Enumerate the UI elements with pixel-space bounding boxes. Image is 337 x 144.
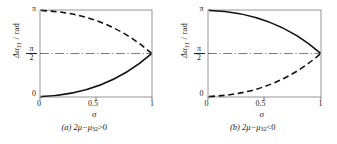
y-axis-label-a: Δα31 / rad (12, 8, 21, 74)
caption-rel-b: <0 (267, 122, 276, 132)
x-tick-label-05-b: 0.5 (256, 100, 266, 108)
y-axis-label-prefix-a: Δα (11, 48, 21, 58)
x-tick-label-0-a: 0 (37, 100, 41, 108)
x-axis-label-a: σ (92, 110, 96, 119)
caption-expr-a: 2μ−μ (73, 122, 92, 132)
y-tick-label-pi-a: π (20, 5, 36, 13)
y-tick-label-pi-over-2-a: π 2 (26, 45, 37, 62)
caption-tag-a: (a) (61, 122, 71, 132)
y-axis-label-suffix-b: / rad (179, 23, 189, 42)
y-axis-label-suffix-a: / rad (11, 23, 21, 42)
y-axis-label-prefix-b: Δα (179, 48, 189, 58)
y-tick-label-zero-a: 0 (20, 90, 36, 98)
x-tick-label-0-b: 0 (205, 100, 209, 108)
y-tick-label-zero-b: 0 (188, 90, 204, 98)
caption-b: (b) 2μ−μ32<0 (169, 123, 337, 132)
y-axis-label-b: Δα31 / rad (180, 8, 189, 74)
y-axis-label-sub-b: 31 (183, 42, 189, 48)
caption-a: (a) 2μ−μ32>0 (0, 123, 169, 132)
panel-a: Δα31 / rad π π 2 0 0 0.5 1 σ (a) 2μ−μ32>… (0, 0, 169, 144)
x-tick-label-1-b: 1 (319, 100, 323, 108)
panel-b: Δα31 / rad π π 2 0 0 0.5 1 σ (b) 2μ−μ32<… (169, 0, 337, 144)
caption-tag-b: (b) (230, 122, 240, 132)
figure-container: Δα31 / rad π π 2 0 0 0.5 1 σ (a) 2μ−μ32>… (0, 0, 337, 144)
y-tick-pi2-denominator-b: 2 (194, 54, 205, 62)
caption-expr-b: 2μ−μ (242, 122, 261, 132)
y-axis-label-sub-a: 31 (16, 42, 22, 48)
y-tick-label-pi-over-2-b: π 2 (194, 45, 205, 62)
x-tick-label-05-a: 0.5 (88, 100, 98, 108)
x-tick-label-1-a: 1 (150, 100, 154, 108)
caption-rel-a: >0 (98, 122, 107, 132)
y-tick-pi2-denominator-a: 2 (26, 54, 37, 62)
y-tick-label-pi-b: π (188, 5, 204, 13)
x-axis-label-b: σ (260, 110, 264, 119)
